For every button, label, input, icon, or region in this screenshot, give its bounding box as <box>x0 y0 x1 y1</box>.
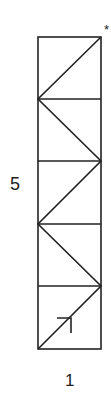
height-label: 5 <box>10 174 20 194</box>
width-label: 1 <box>65 371 74 390</box>
start-marker: * <box>104 22 109 37</box>
arrow-head-icon <box>57 318 71 333</box>
zigzag-diagram: * 5 1 <box>0 0 111 394</box>
zigzag-path <box>38 37 101 349</box>
